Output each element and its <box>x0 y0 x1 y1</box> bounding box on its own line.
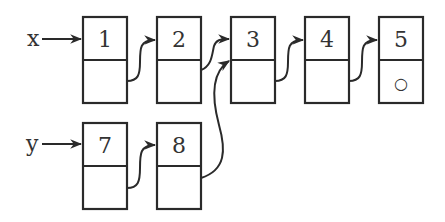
node-1: 1 <box>83 17 127 103</box>
next-arrow-3-4 <box>275 40 303 81</box>
node-value: 7 <box>98 133 112 158</box>
node-value: 1 <box>98 27 112 52</box>
node-8: 8 <box>157 123 201 209</box>
node-value: 3 <box>246 27 260 52</box>
node-value: 5 <box>394 27 408 52</box>
node-value: 4 <box>320 27 334 52</box>
node-5: 5 ○ <box>379 17 423 103</box>
next-arrow-8-3 <box>201 61 229 178</box>
null-icon: ○ <box>394 74 408 93</box>
pointer-y-label: y <box>25 131 39 156</box>
node-value: 2 <box>172 27 186 52</box>
pointer-y: y <box>25 131 81 156</box>
node-3: 3 <box>231 17 275 103</box>
next-arrow-7-8 <box>127 145 155 188</box>
next-arrow-1-2 <box>127 40 155 81</box>
linked-list-diagram: x y 1 2 3 4 5 ○ 7 <box>0 0 445 222</box>
node-4: 4 <box>305 17 349 103</box>
pointer-x: x <box>27 26 81 51</box>
node-value: 8 <box>172 133 186 158</box>
next-arrow-4-5 <box>349 40 377 81</box>
node-7: 7 <box>83 123 127 209</box>
node-2: 2 <box>157 17 201 103</box>
pointer-x-label: x <box>27 26 40 51</box>
